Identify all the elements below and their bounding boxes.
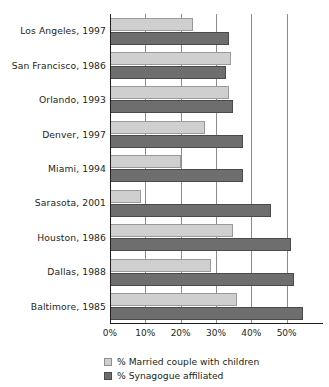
- bar-married: [110, 18, 193, 31]
- bar-married: [110, 86, 229, 99]
- bar-synagogue: [110, 204, 271, 217]
- bar-synagogue: [110, 100, 233, 113]
- legend-label: % Married couple with children: [117, 356, 259, 367]
- x-tick-label: 30%: [206, 328, 226, 338]
- x-axis-tick-labels: 0%10%20%30%40%50%: [110, 328, 325, 344]
- category-label: Denver, 1997: [0, 130, 106, 140]
- legend-label: % Synagogue affiliated: [117, 370, 223, 381]
- bar-married: [110, 121, 205, 134]
- bar-synagogue: [110, 32, 229, 45]
- x-axis-line: [110, 323, 323, 324]
- bar-synagogue: [110, 169, 243, 182]
- y-axis-line: [110, 14, 111, 324]
- plot-area: [110, 14, 322, 324]
- bar-married: [110, 224, 233, 237]
- category-label: Baltimore, 1985: [0, 302, 106, 312]
- x-tick-label: 20%: [171, 328, 191, 338]
- chart-legend: % Married couple with children% Synagogu…: [104, 355, 324, 383]
- x-tick-label: 40%: [241, 328, 261, 338]
- bar-synagogue: [110, 66, 226, 79]
- bar-synagogue: [110, 307, 303, 320]
- bar-synagogue: [110, 135, 243, 148]
- bar-chart: Los Angeles, 1997San Francisco, 1986Orla…: [0, 0, 329, 387]
- x-tick-label: 50%: [277, 328, 297, 338]
- category-label: Miami, 1994: [0, 164, 106, 174]
- plot-inner: [110, 14, 322, 324]
- category-label: Los Angeles, 1997: [0, 26, 106, 36]
- category-label: Sarasota, 2001: [0, 198, 106, 208]
- bar-married: [110, 155, 181, 168]
- x-tick-label: 10%: [135, 328, 155, 338]
- legend-swatch-icon: [104, 358, 112, 366]
- legend-item: % Married couple with children: [104, 355, 324, 368]
- x-tick-label: 0%: [103, 328, 117, 338]
- bar-married: [110, 52, 231, 65]
- legend-swatch-icon: [104, 372, 112, 380]
- bar-married: [110, 293, 237, 306]
- bar-married: [110, 190, 141, 203]
- category-label: Dallas, 1988: [0, 267, 106, 277]
- bar-married: [110, 259, 211, 272]
- category-label: Orlando, 1993: [0, 95, 106, 105]
- bar-synagogue: [110, 238, 291, 251]
- bar-synagogue: [110, 273, 294, 286]
- category-label: Houston, 1986: [0, 233, 106, 243]
- category-axis-labels: Los Angeles, 1997San Francisco, 1986Orla…: [0, 14, 106, 324]
- legend-item: % Synagogue affiliated: [104, 369, 324, 382]
- category-label: San Francisco, 1986: [0, 61, 106, 71]
